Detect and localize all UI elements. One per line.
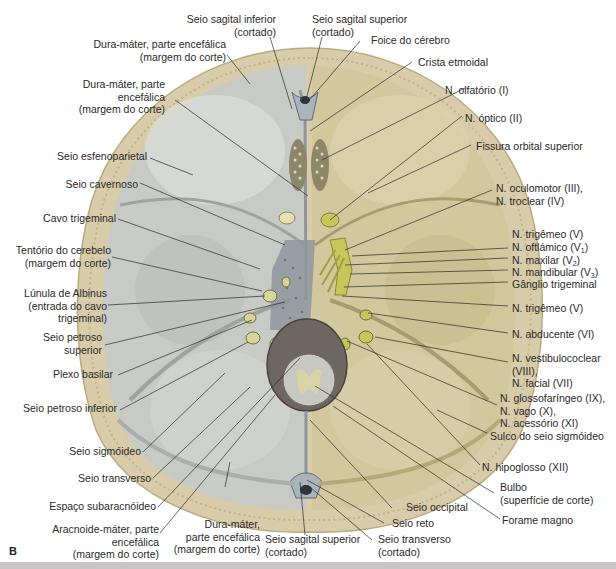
label-seio-esfenoparietal: Seio esfenoparietal	[57, 150, 147, 163]
label-tentorio-cerebelo: Tentório do cerebelo (margem do corte)	[16, 244, 111, 269]
label-espaco-subaracnoideo: Espaço subaracnóideo	[49, 500, 156, 513]
label-n-trigemeo-2: N. trigêmeo (V)	[512, 302, 583, 315]
label-seio-transverso-cortado: Seio transverso (cortado)	[378, 533, 451, 558]
label-seio-sigmoideo: Seio sigmóideo	[69, 445, 141, 458]
label-seio-occipital: Seio occipital	[406, 501, 468, 514]
label-seio-transverso: Seio transverso	[78, 472, 151, 485]
label-n-optico: N. óptico (II)	[465, 112, 522, 125]
panel-letter: B	[9, 545, 17, 557]
label-dura-encefalica-1: Dura-máter, parte encefálica (margem do …	[94, 38, 226, 63]
label-seio-sagital-inferior: Seio sagital inferior (cortado)	[187, 13, 276, 38]
label-forame-magno: Forame magno	[502, 514, 573, 527]
label-cavo-trigeminal: Cavo trigeminal	[43, 212, 116, 225]
label-dura-encefalica-3: Dura-máter, parte encefálica (margem do …	[174, 518, 260, 556]
label-crista-etmoidal: Crista etmoidal	[418, 56, 488, 69]
label-n-vestibulococlear-facial: N. vestibulococlear (VIII), N. facial (V…	[512, 352, 601, 390]
label-n-olfatorio: N. olfatório (I)	[445, 84, 509, 97]
label-n-hipoglosso-sulco: Sulco do seio sigmóideo	[490, 430, 604, 443]
label-seio-sagital-superior-bottom: Seio sagital superior (cortado)	[265, 533, 360, 558]
label-n-abducente: N. abducente (VI)	[512, 328, 594, 341]
label-seio-petroso-inferior: Seio petroso inferior	[23, 402, 117, 415]
anatomy-figure: Dura-máter, parte encefálica (margem do …	[0, 0, 616, 569]
bottom-divider	[0, 562, 616, 569]
label-n-glosso-vago-acessorio: N. glossofaríngeo (IX), N. vago (X), N. …	[500, 392, 605, 430]
label-seio-reto: Seio reto	[392, 517, 434, 530]
label-foice-cerebro: Foice do cérebro	[371, 34, 450, 47]
label-seio-cavernoso: Seio cavernoso	[66, 178, 138, 191]
label-bulbo: Bulbo (superfície de corte)	[500, 481, 593, 506]
label-dura-encefalica-2: Dura-máter, parte encefálica (margem do …	[79, 78, 165, 116]
label-seio-petroso-superior: Seio petroso superior	[43, 331, 102, 356]
label-plexo-basilar: Plexo basilar	[53, 368, 113, 381]
label-aracnoide-mater: Aracnoide-máter, parte encefálica (marge…	[52, 523, 159, 561]
label-ganglio-trigeminal: Gânglio trigeminal	[512, 278, 597, 291]
label-n-hipoglosso: N. hipoglosso (XII)	[482, 461, 568, 474]
label-fissura-orbital-superior: Fissura orbital superior	[476, 140, 583, 153]
label-n-trigemeo-1: N. trigêmeo (V)	[512, 228, 583, 241]
label-n-oculomotor-troclear: N. oculomotor (III), N. troclear (IV)	[496, 182, 583, 207]
label-lunula-albinus: Lúnula de Albinus (entrada do cavo trige…	[24, 287, 107, 325]
